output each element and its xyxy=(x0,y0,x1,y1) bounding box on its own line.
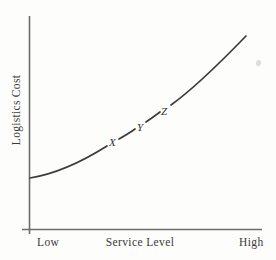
curve-point-label-y: Y xyxy=(137,122,143,133)
y-axis-title: Logistics Cost xyxy=(10,45,26,175)
x-axis-title: Service Level xyxy=(98,236,182,248)
cost-curve-segment-4 xyxy=(171,36,246,105)
x-tick-label-high: High xyxy=(239,236,264,248)
curve-point-label-z: Z xyxy=(161,106,167,117)
cost-curve-segment-3 xyxy=(146,112,160,122)
x-tick-label-low: Low xyxy=(37,236,59,248)
cost-curve-segment-1 xyxy=(30,146,107,178)
cost-curve-segment-2 xyxy=(119,129,135,139)
curve-point-label-x: X xyxy=(109,137,116,148)
figure-container: Logistics Cost Service Level Low High X … xyxy=(0,0,276,260)
